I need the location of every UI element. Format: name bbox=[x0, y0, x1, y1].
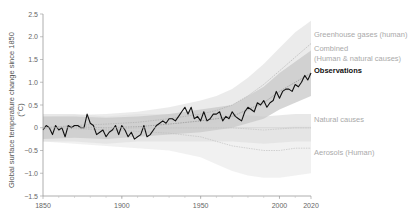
y-tick-label: −1.0 bbox=[24, 170, 38, 177]
legend-greenhouse-gases: Greenhouse gases (human) bbox=[314, 30, 408, 39]
legend-combined: Combined bbox=[314, 44, 348, 53]
legend-aerosols: Aerosols (Human) bbox=[314, 148, 375, 157]
y-tick-label: −0.5 bbox=[24, 147, 38, 154]
y-axis-label-line1: Global surface temperature change since … bbox=[7, 32, 16, 188]
y-tick-label: 2.5 bbox=[28, 11, 38, 18]
x-tick-label: 1850 bbox=[35, 202, 51, 209]
y-axis-label-line2: (°C) bbox=[16, 103, 25, 117]
temperature-chart: 2.52.01.51.00.50−0.5−1.0−1.5 18501900195… bbox=[0, 0, 416, 219]
legend-combined-sub: (Human & natural causes) bbox=[314, 54, 402, 63]
x-tick-label: 2000 bbox=[272, 202, 288, 209]
y-tick-label: 0.5 bbox=[28, 102, 38, 109]
legend-observations: Observations bbox=[314, 66, 362, 75]
y-tick-label: −1.5 bbox=[24, 193, 38, 200]
x-ticks: 18501900195020002020 bbox=[35, 196, 319, 209]
legend-natural-causes: Natural causes bbox=[314, 115, 364, 124]
x-tick-label: 1900 bbox=[114, 202, 130, 209]
y-tick-label: 2.0 bbox=[28, 33, 38, 40]
y-tick-label: 1.0 bbox=[28, 79, 38, 86]
y-tick-label: 1.5 bbox=[28, 56, 38, 63]
x-tick-label: 2020 bbox=[303, 202, 319, 209]
y-ticks: 2.52.01.51.00.50−0.5−1.0−1.5 bbox=[24, 11, 43, 200]
x-tick-label: 1950 bbox=[193, 202, 209, 209]
uncertainty-bands bbox=[43, 21, 311, 178]
y-tick-label: 0 bbox=[34, 124, 38, 131]
legend: Greenhouse gases (human) Combined (Human… bbox=[314, 30, 408, 157]
